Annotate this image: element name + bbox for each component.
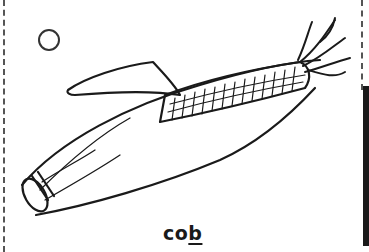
word-prefix: co	[163, 222, 188, 244]
word-target-letter: b	[188, 222, 202, 244]
corn-cob-icon	[0, 0, 369, 252]
word-label: cob	[163, 222, 202, 244]
